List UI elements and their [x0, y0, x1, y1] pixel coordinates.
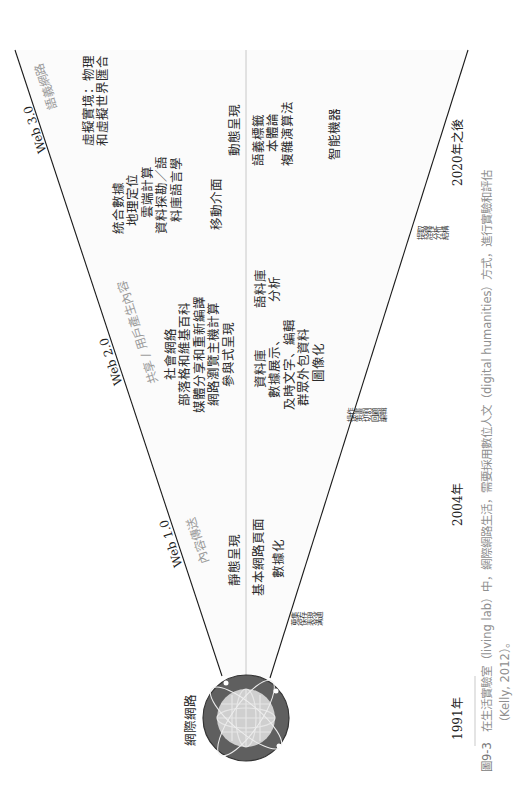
web2-item: 網路瀏覽主機計算 — [207, 294, 221, 414]
web2-upper-items: 社會網絡 部落格和維基百科 媒體分享和重新編譯 網路瀏覽主機計算 參與式呈現 — [164, 294, 236, 414]
web2-item: 社會網絡 — [164, 294, 178, 414]
web2-item: 數據展示、 — [268, 304, 282, 414]
web1-item: 數據化 — [272, 539, 286, 578]
web3-item: 虛擬實境：物理 — [82, 55, 96, 146]
web3-lower-items: 語義標籤 本體論 複雜演算法 — [252, 101, 295, 166]
web1-item: 基本網路頁面 — [252, 518, 266, 596]
web2-item: 及時文字、編輯 — [283, 304, 297, 414]
web3-item: 複雜演算法 — [281, 101, 295, 166]
web3-item: 資料探勘／語 — [155, 156, 169, 234]
web2-lower-items: 資料庫 數據展示、 及時文字、編輯 群眾外包資料 圖像化 — [254, 304, 326, 414]
activity-item: 溝通 — [316, 612, 324, 626]
globe-icon — [203, 673, 290, 763]
web1-item: 靜態呈現 — [228, 534, 242, 586]
web2-item: 圖像化 — [312, 304, 326, 414]
web3-activities: 提取 詮釋 分析 結構 — [418, 226, 450, 240]
web3-item: 語義標籤 — [252, 101, 266, 166]
timeline-year-1991: 1991年 — [448, 697, 465, 740]
timeline-year-2004: 2004年 — [448, 483, 465, 526]
web3-item: 和虛擬世界匯合 — [96, 55, 110, 146]
origin-label: 網際網路 — [184, 694, 198, 746]
web3-item: 本體論 — [266, 101, 280, 166]
web2-item: 部落格和維基百科 — [178, 294, 192, 414]
activity-item: 編輯 — [380, 408, 388, 422]
web2-item: 語料庫 — [254, 269, 268, 308]
web3-item: 統合數據 — [112, 156, 126, 234]
web3-item: 地理定位 — [126, 156, 140, 234]
web2-item: 分析 — [268, 269, 282, 308]
web2-item: 群眾外包資料 — [297, 304, 311, 414]
web2-lower-items-2: 語料庫 分析 — [254, 269, 283, 308]
web3-lower-items-2: 智能機器 — [328, 108, 342, 160]
figure-caption: 圖9-3在生活實驗室（living lab）中，網際網路生活，需要採用數位人文（… — [479, 170, 515, 772]
web2-activities: 操作 策畫 切割 回顧 編輯 — [348, 408, 387, 422]
web2-item: 資料庫 — [254, 304, 268, 414]
web1-activities: 蒐集 保存 表現 溝通 — [292, 612, 324, 626]
web3-item: 雲端計算 — [141, 156, 155, 234]
web3-item: 料庫語言學 — [170, 156, 184, 234]
web2-item: 媒體分享和重新編譯 — [193, 294, 207, 414]
caption-line-2: （Kelly, 2012）。 — [497, 170, 515, 772]
web3-upper-items: 虛擬實境：物理 和虛擬世界匯合 — [82, 55, 111, 146]
caption-line-1: 在生活實驗室（living lab）中，網際網路生活，需要採用數位人文（digi… — [480, 170, 494, 733]
web3-upper-items-2: 統合數據 地理定位 雲端計算 資料探勘／語 料庫語言學 — [112, 156, 184, 234]
timeline-year-2020: 2020年之後 — [448, 119, 465, 186]
web2-item: 參與式呈現 — [222, 294, 236, 414]
figure-number: 圖9-3 — [480, 742, 494, 772]
web3-upper-items-3: 移動介面 — [210, 178, 224, 230]
web3-upper-items-4: 動態呈現 — [228, 104, 242, 156]
activity-item: 結構 — [442, 226, 450, 240]
